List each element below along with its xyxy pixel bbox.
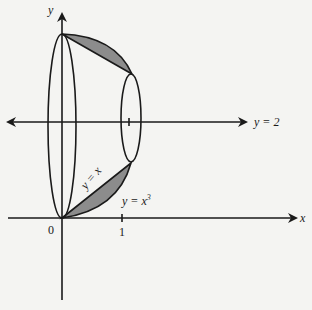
- cubic-label-base: y = x: [121, 194, 147, 208]
- origin-label: 0: [48, 223, 54, 237]
- rotation-axis-label: y = 2: [253, 115, 279, 129]
- cubic-label-exponent: 3: [146, 193, 151, 202]
- small-cross-section-ellipse: [121, 74, 141, 162]
- cubic-curve-label: y = x3: [121, 193, 151, 208]
- diagram-svg: y x 0 1 y = 2 y = x y = x3: [0, 0, 312, 310]
- y-axis-label: y: [47, 3, 54, 17]
- x-tick-label: 1: [119, 225, 125, 239]
- x-axis-label: x: [299, 211, 306, 225]
- figure-canvas: y x 0 1 y = 2 y = x y = x3: [0, 0, 312, 310]
